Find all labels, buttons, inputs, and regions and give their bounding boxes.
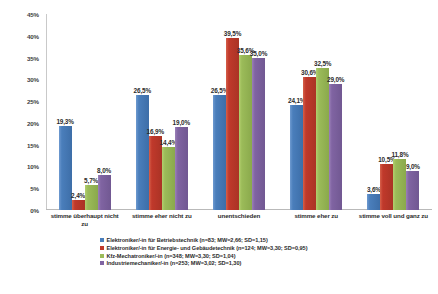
bar[interactable]: 11,8%: [393, 159, 406, 210]
y-axis-labels: 0%5%10%15%20%25%30%35%40%45%: [0, 14, 44, 210]
bar-slot: 19,0%: [175, 14, 188, 210]
bar-group: 3,6%10,5%11,8%9,0%: [355, 14, 432, 210]
y-axis-tick-label: 30%: [27, 76, 39, 83]
bar[interactable]: 39,5%: [226, 38, 239, 210]
x-axis-category-labels: stimme überhaupt nicht zustimme eher nic…: [46, 212, 432, 234]
bar-chart: 0%5%10%15%20%25%30%35%40%45% 19,3%2,4%5,…: [0, 0, 438, 294]
bar-slot: 11,8%: [393, 14, 406, 210]
y-axis-tick-label: 0%: [30, 207, 39, 214]
bar-value-label: 3,6%: [367, 186, 381, 193]
legend-label: Kfz-Mechatroniker/-in (n=348; MW=3,30; S…: [107, 253, 236, 259]
y-axis-tick-label: 15%: [27, 141, 39, 148]
bar-slot: 26,5%: [213, 14, 226, 210]
legend-label: Elektroniker/-in für Betriebstechnik (n=…: [107, 237, 268, 243]
y-axis-tick-label: 20%: [27, 119, 39, 126]
legend-item[interactable]: Industriemechaniker/-in (n=253; MW=3,02;…: [100, 260, 400, 268]
x-axis-category-label: stimme eher nicht zu: [123, 212, 200, 234]
bar[interactable]: 19,3%: [59, 126, 72, 210]
x-axis-category-label: unentschieden: [200, 212, 277, 234]
bar-slot: 32,5%: [316, 14, 329, 210]
bar[interactable]: 16,9%: [149, 136, 162, 210]
legend-color-swatch-icon: [100, 254, 104, 258]
bar[interactable]: 26,5%: [136, 95, 149, 210]
y-axis-tick-label: 35%: [27, 54, 39, 61]
bar-slot: 26,5%: [136, 14, 149, 210]
bar[interactable]: 8,0%: [98, 175, 111, 210]
bar-value-label: 5,7%: [84, 177, 98, 184]
bar-slot: 16,9%: [149, 14, 162, 210]
y-axis-tick-label: 25%: [27, 98, 39, 105]
legend-color-swatch-icon: [100, 246, 104, 250]
bar-slot: 14,4%: [162, 14, 175, 210]
y-axis-tick-label: 40%: [27, 32, 39, 39]
bar-value-label: 29,0%: [327, 76, 344, 83]
bar-slot: 8,0%: [98, 14, 111, 210]
legend-item[interactable]: Elektroniker/-in für Energie- und Gebäud…: [100, 244, 400, 252]
legend-label: Elektroniker/-in für Energie- und Gebäud…: [107, 245, 308, 251]
bar-group: 26,5%16,9%14,4%19,0%: [123, 14, 200, 210]
x-axis-category-label: stimme überhaupt nicht zu: [46, 212, 123, 234]
bar[interactable]: 32,5%: [316, 68, 329, 210]
bar[interactable]: 3,6%: [367, 194, 380, 210]
bar-value-label: 35,0%: [250, 50, 267, 57]
legend-color-swatch-icon: [100, 261, 104, 265]
bar-slot: 5,7%: [85, 14, 98, 210]
bar-group: 19,3%2,4%5,7%8,0%: [46, 14, 123, 210]
bar-slot: 35,6%: [239, 14, 252, 210]
bar[interactable]: 35,6%: [239, 55, 252, 210]
bar-slot: 30,6%: [303, 14, 316, 210]
bar-slot: 19,3%: [59, 14, 72, 210]
legend-color-swatch-icon: [100, 238, 104, 242]
bar[interactable]: 24,1%: [290, 105, 303, 210]
bar-slot: 9,0%: [406, 14, 419, 210]
bar-slot: 29,0%: [329, 14, 342, 210]
bar[interactable]: 9,0%: [406, 171, 419, 210]
bar-slot: 2,4%: [72, 14, 85, 210]
bar[interactable]: 19,0%: [175, 127, 188, 210]
bar[interactable]: 30,6%: [303, 77, 316, 210]
bar[interactable]: 26,5%: [213, 95, 226, 210]
x-axis-category-label: stimme voll und ganz zu: [355, 212, 432, 234]
x-axis-category-label: stimme eher zu: [278, 212, 355, 234]
bar-groups: 19,3%2,4%5,7%8,0%26,5%16,9%14,4%19,0%26,…: [46, 14, 432, 210]
y-axis-tick-label: 10%: [27, 163, 39, 170]
y-axis-tick-label: 5%: [30, 185, 39, 192]
plot-area: 19,3%2,4%5,7%8,0%26,5%16,9%14,4%19,0%26,…: [46, 14, 432, 210]
bar[interactable]: 35,0%: [252, 58, 265, 210]
bar[interactable]: 10,5%: [380, 164, 393, 210]
legend-item[interactable]: Kfz-Mechatroniker/-in (n=348; MW=3,30; S…: [100, 252, 400, 260]
bar-slot: 10,5%: [380, 14, 393, 210]
chart-legend: Elektroniker/-in für Betriebstechnik (n=…: [100, 236, 400, 268]
bar-value-label: 2,4%: [71, 192, 85, 199]
legend-label: Industriemechaniker/-in (n=253; MW=3,02;…: [107, 260, 242, 266]
bar[interactable]: 5,7%: [85, 185, 98, 210]
y-axis-tick-label: 45%: [27, 11, 39, 18]
bar-value-label: 9,0%: [406, 163, 420, 170]
bar-value-label: 19,0%: [173, 119, 190, 126]
bar[interactable]: 14,4%: [162, 147, 175, 210]
bar-group: 24,1%30,6%32,5%29,0%: [278, 14, 355, 210]
bar-slot: 39,5%: [226, 14, 239, 210]
bar[interactable]: 2,4%: [72, 200, 85, 210]
bar-slot: 3,6%: [367, 14, 380, 210]
bar-slot: 35,0%: [252, 14, 265, 210]
bar[interactable]: 29,0%: [329, 84, 342, 210]
legend-item[interactable]: Elektroniker/-in für Betriebstechnik (n=…: [100, 236, 400, 244]
bar-slot: 24,1%: [290, 14, 303, 210]
bar-value-label: 8,0%: [97, 167, 111, 174]
bar-group: 26,5%39,5%35,6%35,0%: [200, 14, 277, 210]
